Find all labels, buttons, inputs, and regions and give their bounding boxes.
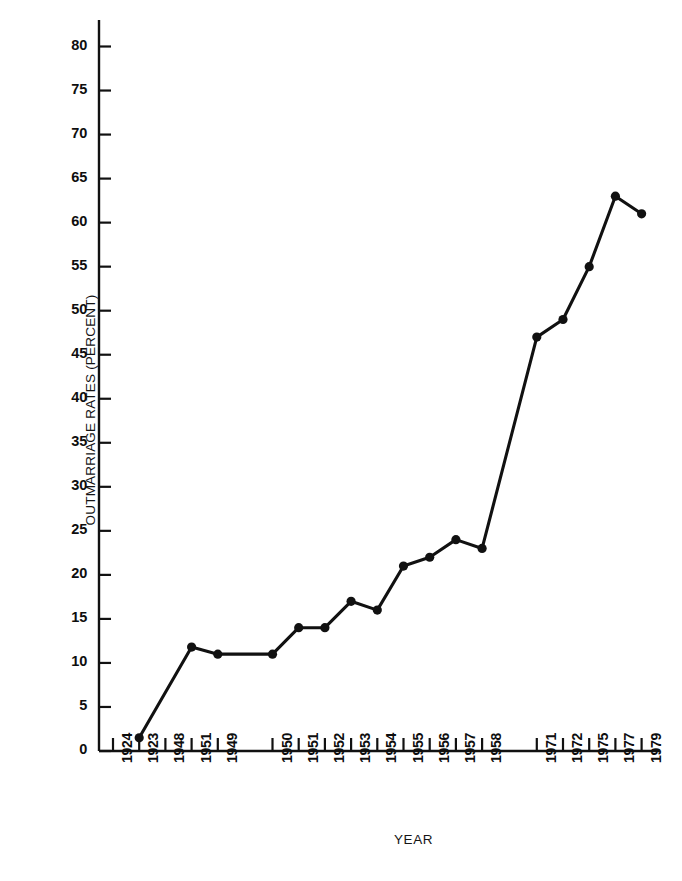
y-tick-label: 60 [47, 213, 87, 229]
data-point-marker: 1923: 1.5% [135, 733, 144, 742]
bottom-margin [0, 872, 682, 881]
y-tick-label: 50 [47, 301, 87, 317]
data-point-marker: 1951: 11.8% [187, 642, 196, 651]
x-tick-label: 1958 [488, 733, 504, 763]
data-point-marker: 1977: 63% [611, 192, 620, 201]
x-tick-label: 1951 [198, 733, 214, 763]
data-point-marker: 1950: 11% [268, 650, 277, 659]
data-point-marker: 1952: 14% [320, 623, 329, 632]
y-tick-label: 15 [47, 609, 87, 625]
data-point-marker: 1971: 47% [532, 333, 541, 342]
x-tick-label: 1949 [224, 733, 240, 763]
y-tick-label: 10 [47, 653, 87, 669]
data-point-marker: 1956: 22% [425, 553, 434, 562]
x-tick-label: 1954 [383, 733, 399, 763]
y-tick-label: 45 [47, 345, 87, 361]
x-tick-label: 1957 [462, 733, 478, 763]
y-tick-label: 20 [47, 565, 87, 581]
x-axis-title: YEAR [394, 832, 433, 847]
x-tick-label: 1923 [145, 733, 161, 763]
x-tick-label: 1979 [648, 733, 664, 763]
x-tick-label: 1977 [621, 733, 637, 763]
y-tick-label: 30 [47, 477, 87, 493]
x-tick-label: 1953 [357, 733, 373, 763]
data-point-marker: 1958: 23% [478, 544, 487, 553]
y-tick-label: 70 [47, 125, 87, 141]
data-point-marker: 1957: 24% [451, 535, 460, 544]
x-tick-label: 1924 [119, 733, 135, 763]
data-point-marker: 1953: 17% [347, 597, 356, 606]
x-tick-label: 1950 [279, 733, 295, 763]
y-tick-label: 35 [47, 433, 87, 449]
y-tick-label: 5 [47, 697, 87, 713]
data-point-marker: 1949: 11% [213, 650, 222, 659]
x-tick-label: 1972 [569, 733, 585, 763]
x-tick-label: 1952 [331, 733, 347, 763]
y-tick-label: 25 [47, 521, 87, 537]
data-point-marker: 1972: 49% [558, 315, 567, 324]
chart-figure: OUTMARRIAGE RATES (PERCENT) 1923: 1.5%19… [0, 0, 682, 881]
x-tick-marks [113, 738, 642, 751]
data-point-marker: 1954: 16% [373, 606, 382, 615]
x-tick-label: 1975 [595, 733, 611, 763]
y-tick-label: 80 [47, 37, 87, 53]
data-point-marker: 1951: 14% [294, 623, 303, 632]
data-point-marker: 1975: 55% [585, 262, 594, 271]
data-point-marker: 1979: 61% [637, 209, 646, 218]
y-tick-label: 65 [47, 169, 87, 185]
y-tick-label: 55 [47, 257, 87, 273]
x-tick-label: 1951 [305, 733, 321, 763]
x-tick-label: 1948 [171, 733, 187, 763]
x-tick-label: 1956 [436, 733, 452, 763]
y-tick-label: 75 [47, 81, 87, 97]
y-tick-marks [99, 47, 111, 752]
y-tick-label: 0 [47, 741, 87, 757]
x-tick-label: 1955 [410, 733, 426, 763]
axis-lines [99, 20, 660, 751]
y-tick-label: 40 [47, 389, 87, 405]
data-point-markers: 1923: 1.5%1951: 11.8%1949: 11%1950: 11%1… [135, 192, 647, 743]
x-tick-label: 1971 [543, 733, 559, 763]
data-point-marker: 1955: 21% [399, 561, 408, 570]
